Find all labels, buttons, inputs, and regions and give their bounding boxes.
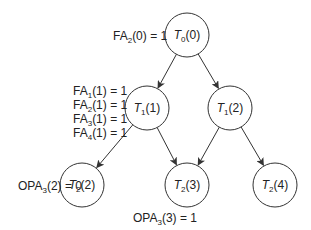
tree-node-T0_0: T0(0) bbox=[165, 13, 209, 57]
tree-node-T1_1: T1(1) bbox=[125, 86, 169, 130]
tree-node-T2_3: T2(3) bbox=[165, 163, 209, 207]
annotation-label: FA4(1) = 1 bbox=[73, 126, 127, 142]
node-label: T1(1) bbox=[134, 101, 160, 117]
node-label: T1(2) bbox=[217, 101, 243, 117]
edge-arrow bbox=[241, 127, 263, 165]
tree-diagram: T0(0)T1(1)T1(2)T2(2)T2(3)T2(4) FA2(0) = … bbox=[0, 0, 311, 230]
tree-node-T2_4: T2(4) bbox=[253, 163, 297, 207]
edge-arrow bbox=[198, 54, 218, 88]
edge-arrow bbox=[157, 128, 176, 165]
annotation-label: OPA3(2) = 0 bbox=[18, 179, 82, 195]
edge-arrow bbox=[158, 54, 176, 88]
edge-arrow bbox=[198, 127, 219, 165]
annotation-label: OPA3(3) = 1 bbox=[133, 211, 197, 227]
annotation-label: FA2(0) = 1 bbox=[113, 29, 167, 45]
node-label: T2(3) bbox=[174, 178, 200, 194]
node-label: T2(4) bbox=[262, 178, 288, 194]
node-label: T0(0) bbox=[174, 28, 200, 44]
tree-node-T1_2: T1(2) bbox=[208, 86, 252, 130]
